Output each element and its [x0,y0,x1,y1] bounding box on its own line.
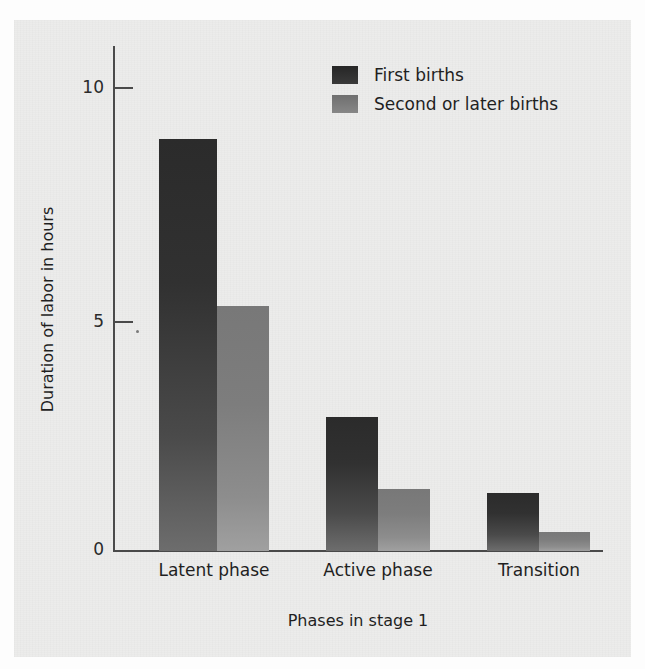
legend-item-second-births: Second or later births [332,91,558,117]
legend-item-first-births: First births [332,62,558,88]
legend-label-first-births: First births [374,66,464,84]
chart-page: 10 5 0 First births Second or later birt… [0,0,645,669]
legend-swatch-first-births-icon [332,66,358,84]
y-axis-title: Duration of labor in hours [38,180,57,440]
bar-active-first-births [326,417,378,551]
x-category-label-transition: Transition [459,560,619,580]
bar-active-second-births [378,489,430,551]
legend: First births Second or later births [332,62,558,120]
x-category-label-active-phase: Active phase [298,560,458,580]
bar-transition-second-births [539,532,590,551]
x-category-label-latent-phase: Latent phase [134,560,294,580]
bar-transition-first-births [487,493,539,551]
scan-speck [136,330,139,333]
bar-latent-first-births [159,139,217,551]
legend-swatch-second-births-icon [332,95,358,113]
x-axis-title: Phases in stage 1 [113,611,603,630]
legend-label-second-births: Second or later births [374,95,558,113]
bar-latent-second-births [217,306,269,551]
